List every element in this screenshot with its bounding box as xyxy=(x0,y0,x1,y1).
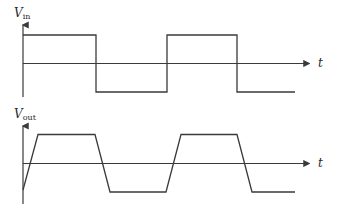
vout-y-label: Vout xyxy=(14,107,37,122)
vin-t-label: t xyxy=(318,56,323,70)
waveform-diagram: Vin t Vout t xyxy=(0,0,340,212)
vin-y-label: Vin xyxy=(14,6,30,21)
vout-t-label: t xyxy=(318,156,323,170)
output-panel: Vout t xyxy=(14,107,323,204)
input-panel: Vin t xyxy=(14,6,323,97)
